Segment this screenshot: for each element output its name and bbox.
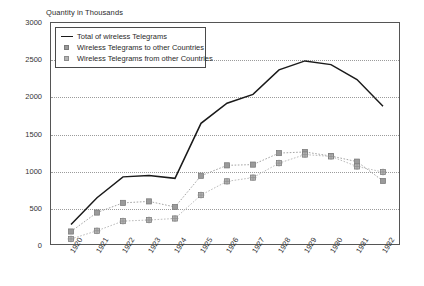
series-2 [68, 149, 385, 234]
y-axis-tick-label: 500 [29, 203, 42, 212]
data-point-marker [198, 173, 203, 178]
legend-plus-square-icon [60, 53, 74, 64]
data-point-marker [146, 199, 151, 204]
data-point-marker [380, 178, 385, 183]
chart-legend: Total of wireless TelegramsWireless Tele… [55, 27, 206, 68]
y-axis-tick-label: 1000 [25, 166, 42, 175]
series-line [71, 61, 383, 225]
legend-square-icon [60, 42, 74, 53]
legend-item-label: Wireless Telegrams from other Countries [77, 53, 213, 64]
y-axis-tick-label: 2500 [25, 55, 42, 64]
legend-item[interactable]: Total of wireless Telegrams [60, 31, 201, 42]
data-point-marker [172, 204, 177, 209]
y-axis-tick-label: 0 [38, 241, 42, 250]
data-point-marker [224, 163, 229, 168]
series-1 [71, 61, 383, 225]
chart-axis-title: Quantity in Thousands [46, 8, 123, 17]
data-point-marker [68, 229, 73, 234]
y-axis-labels: 050010001500200025003000 [0, 22, 46, 245]
legend-item[interactable]: Wireless Telegrams to other Countries [60, 42, 201, 53]
legend-item-label: Wireless Telegrams to other Countries [77, 42, 204, 53]
data-point-marker [250, 162, 255, 167]
x-axis-labels: 1920192119221923192419251926192719281929… [50, 246, 400, 286]
legend-line-icon [60, 31, 74, 42]
data-point-marker [120, 200, 125, 205]
y-axis-tick-label: 3000 [25, 18, 42, 27]
legend-item-label: Total of wireless Telegrams [77, 31, 167, 42]
chart-figure: Quantity in Thousands 050010001500200025… [0, 0, 424, 286]
legend-item[interactable]: Wireless Telegrams from other Countries [60, 53, 201, 64]
y-axis-tick-label: 2000 [25, 92, 42, 101]
y-axis-tick-label: 1500 [25, 129, 42, 138]
data-point-marker [94, 210, 99, 215]
data-point-marker [276, 150, 281, 155]
